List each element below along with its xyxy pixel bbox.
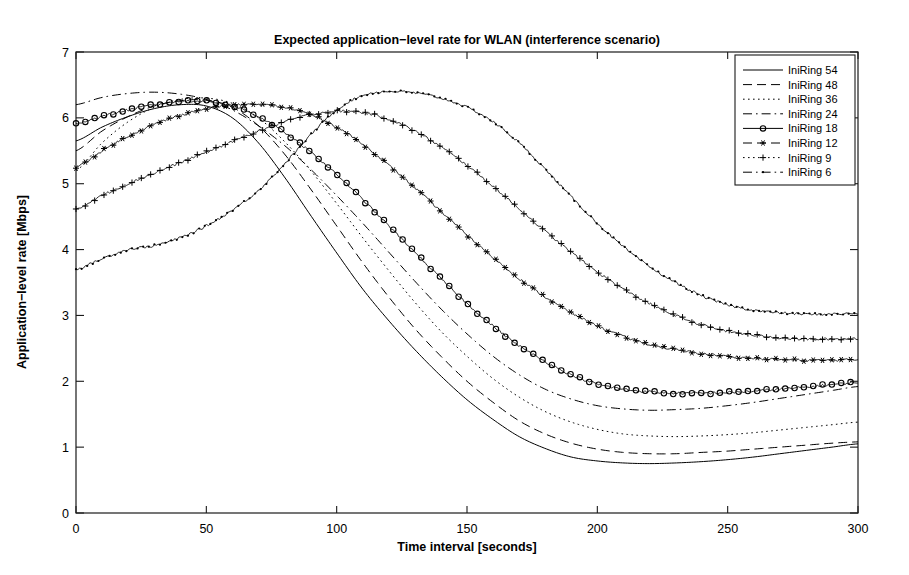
dot-marker	[596, 222, 598, 224]
dot-marker	[411, 92, 413, 94]
y-tick-label: 1	[62, 441, 69, 455]
dot-marker	[506, 131, 508, 133]
x-tick-label: 300	[848, 522, 869, 536]
x-tick-label: 100	[326, 522, 347, 536]
dot-marker	[103, 257, 105, 259]
dot-marker	[75, 268, 77, 270]
dot-marker	[472, 108, 474, 110]
legend-label[interactable]: IniRing 48	[788, 79, 838, 91]
dot-marker	[355, 98, 357, 100]
dot-marker	[489, 119, 491, 121]
dot-marker	[80, 268, 82, 270]
legend-label[interactable]: IniRing 18	[788, 122, 838, 134]
dot-marker	[92, 263, 94, 265]
y-tick-label: 7	[62, 46, 69, 60]
dot-marker	[360, 95, 362, 97]
dot-marker	[534, 159, 536, 161]
dot-marker	[545, 169, 547, 171]
legend-label[interactable]: IniRing 9	[788, 152, 831, 164]
dot-marker	[366, 94, 368, 96]
dot-marker	[786, 313, 788, 315]
dot-marker	[808, 312, 810, 314]
dot-marker	[439, 96, 441, 98]
dot-marker	[164, 242, 166, 244]
dot-marker	[248, 197, 250, 199]
dot-marker	[120, 252, 122, 254]
dot-marker	[820, 313, 822, 315]
dot-marker	[204, 225, 206, 227]
x-tick-label: 150	[457, 522, 478, 536]
y-tick-label: 4	[62, 243, 69, 257]
dot-marker	[691, 291, 693, 293]
dot-marker	[640, 259, 642, 261]
dot-marker	[612, 236, 614, 238]
dot-marker	[680, 284, 682, 286]
chart-legend[interactable]: IniRing 54IniRing 48IniRing 36IniRing 24…	[735, 55, 855, 185]
dot-marker	[792, 312, 794, 314]
legend-label[interactable]: IniRing 12	[788, 137, 838, 149]
dot-marker	[388, 90, 390, 92]
dot-marker	[590, 215, 592, 217]
legend-label[interactable]: IniRing 54	[788, 64, 838, 76]
dot-marker	[842, 313, 844, 315]
dot-marker	[187, 235, 189, 237]
dot-marker	[114, 254, 116, 256]
legend-label[interactable]: IniRing 36	[788, 93, 838, 105]
dot-marker	[444, 98, 446, 100]
legend-label[interactable]: IniRing 6	[788, 166, 831, 178]
dot-marker	[618, 241, 620, 243]
dot-marker	[372, 93, 374, 95]
dot-marker	[584, 211, 586, 213]
dot-marker	[282, 165, 284, 167]
y-axis-label: Application−level rate [Mbps]	[15, 195, 29, 369]
y-tick-label: 0	[62, 507, 69, 521]
y-tick-label: 5	[62, 177, 69, 191]
dot-marker	[321, 121, 323, 123]
dot-marker	[293, 153, 295, 155]
dot-marker	[433, 95, 435, 97]
dot-marker	[685, 288, 687, 290]
dot-marker	[579, 205, 581, 207]
dot-marker	[428, 93, 430, 95]
dot-marker	[747, 308, 749, 310]
dot-marker	[730, 304, 732, 306]
dot-marker	[142, 246, 144, 248]
dot-marker	[344, 103, 346, 105]
dot-marker	[484, 116, 486, 118]
dot-marker	[310, 132, 312, 134]
dot-marker	[719, 301, 721, 303]
dot-marker	[232, 210, 234, 212]
dot-marker	[713, 299, 715, 301]
dot-marker	[814, 312, 816, 314]
dot-marker	[400, 89, 402, 91]
dot-marker	[226, 212, 228, 214]
dot-marker	[836, 313, 838, 315]
dot-marker	[562, 187, 564, 189]
dot-marker	[338, 108, 340, 110]
dot-marker	[780, 312, 782, 314]
dot-marker	[831, 314, 833, 316]
dot-marker	[523, 146, 525, 148]
dot-marker	[762, 171, 764, 173]
dot-marker	[220, 216, 222, 218]
dot-marker	[797, 312, 799, 314]
y-tick-label: 2	[62, 375, 69, 389]
y-tick-label: 3	[62, 309, 69, 323]
legend-label[interactable]: IniRing 24	[788, 108, 838, 120]
x-tick-label: 250	[717, 522, 738, 536]
dot-marker	[758, 310, 760, 312]
dot-marker	[327, 115, 329, 117]
dot-marker	[500, 126, 502, 128]
dot-marker	[663, 275, 665, 277]
dot-marker	[198, 227, 200, 229]
dot-marker	[159, 244, 161, 246]
dot-marker	[260, 188, 262, 190]
x-tick-label: 200	[587, 522, 608, 536]
dot-marker	[304, 140, 306, 142]
dot-marker	[708, 297, 710, 299]
dot-marker	[349, 99, 351, 101]
x-axis-label: Time interval [seconds]	[397, 540, 536, 554]
dot-marker	[181, 236, 183, 238]
dot-marker	[540, 163, 542, 165]
dot-marker	[394, 91, 396, 93]
